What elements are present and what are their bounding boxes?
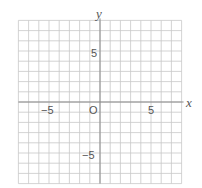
y-tick-label-5: 5 <box>91 47 97 59</box>
x-tick-label-5: 5 <box>148 104 154 116</box>
y-axis-label: y <box>94 6 102 21</box>
coordinate-plane: y x O −5 5 5 −5 <box>0 0 202 188</box>
origin-label: O <box>89 104 98 116</box>
x-axis-label: x <box>185 95 192 110</box>
y-tick-label-neg5: −5 <box>82 149 95 161</box>
axes <box>18 18 183 183</box>
x-tick-label-neg5: −5 <box>41 104 54 116</box>
